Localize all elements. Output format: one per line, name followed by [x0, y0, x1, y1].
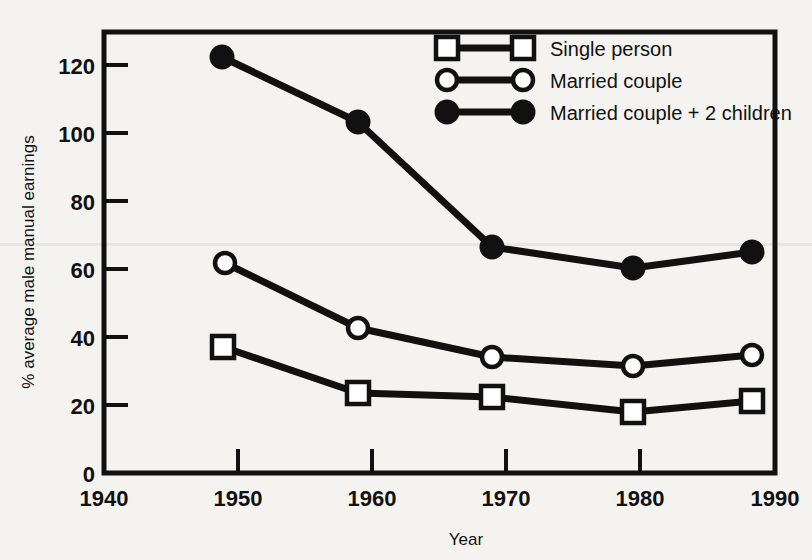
x-tick-label: 1950	[214, 486, 263, 511]
data-point	[741, 390, 763, 412]
legend-marker-open-circle	[437, 70, 457, 90]
data-point	[212, 336, 234, 358]
legend-label: Single person	[550, 38, 672, 60]
legend-marker-filled-circle	[512, 101, 534, 123]
chart-figure: 120 100 80 60 40 20 0 1940 1950 1960 197…	[0, 0, 812, 560]
data-point	[622, 401, 644, 423]
data-point	[742, 345, 762, 365]
legend-marker-filled-circle	[436, 101, 458, 123]
x-tick-label: 1970	[482, 486, 531, 511]
x-axis-title: Year	[449, 530, 484, 549]
x-tick-label: 1960	[348, 486, 397, 511]
line-chart: 120 100 80 60 40 20 0 1940 1950 1960 197…	[0, 0, 812, 560]
x-tick-label: 1940	[80, 486, 129, 511]
data-point	[741, 241, 763, 263]
legend-label: Married couple	[550, 70, 682, 92]
legend-marker-open-square	[512, 37, 534, 59]
data-point	[623, 356, 643, 376]
series-married-couple	[215, 253, 762, 376]
legend-marker-open-circle	[513, 70, 533, 90]
x-axis-tick-labels: 1940 1950 1960 1970 1980 1990	[80, 486, 800, 511]
legend-label: Married couple + 2 children	[550, 102, 792, 124]
data-point	[348, 318, 368, 338]
y-tick-label: 120	[58, 54, 95, 79]
data-point	[481, 236, 503, 258]
data-point	[347, 382, 369, 404]
x-tick-label: 1990	[751, 486, 800, 511]
legend-item-married-couple[interactable]: Married couple	[437, 70, 682, 92]
data-point	[215, 253, 235, 273]
y-axis-tick-labels: 120 100 80 60 40 20 0	[58, 54, 95, 487]
x-tick-label: 1980	[616, 486, 665, 511]
y-tick-label: 0	[83, 462, 95, 487]
data-point	[347, 111, 369, 133]
data-point	[211, 46, 233, 68]
legend-item-married-couple-2-children[interactable]: Married couple + 2 children	[436, 101, 792, 124]
data-point	[481, 386, 503, 408]
y-tick-label: 40	[71, 326, 95, 351]
chart-legend: Single person Married couple Married cou…	[436, 37, 792, 124]
data-point	[482, 347, 502, 367]
y-axis-title: % average male manual earnings	[19, 135, 38, 388]
y-tick-label: 60	[71, 258, 95, 283]
y-tick-label: 80	[71, 190, 95, 215]
y-tick-label: 20	[71, 394, 95, 419]
y-tick-label: 100	[58, 122, 95, 147]
legend-marker-open-square	[436, 37, 458, 59]
legend-item-single-person[interactable]: Single person	[436, 37, 672, 60]
y-axis-ticks	[104, 65, 128, 405]
data-point	[622, 257, 644, 279]
x-axis-ticks	[238, 449, 640, 473]
